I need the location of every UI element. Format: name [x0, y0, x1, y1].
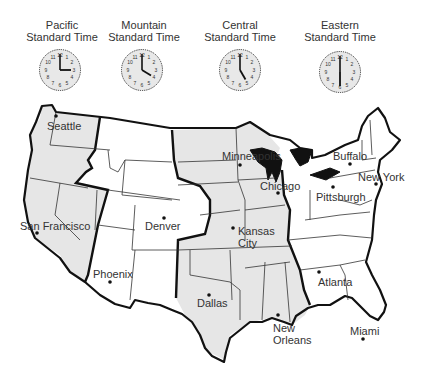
city-label-line2: Orleans [273, 334, 312, 346]
city-label-new-orleans: New Orleans [273, 322, 312, 346]
city-label-minneapolis: Minneapolis [222, 150, 281, 162]
city-label-line2: City [238, 237, 275, 249]
city-label-kansas-city: Kansas City [238, 225, 275, 249]
city-label-san-francisco: San Francisco [20, 220, 90, 232]
city-label-atlanta: Atlanta [318, 276, 352, 288]
city-label-pittsburgh: Pittsburgh [316, 191, 366, 203]
city-label-phoenix: Phoenix [93, 268, 133, 280]
city-label-denver: Denver [145, 220, 180, 232]
us-time-zone-map [0, 0, 422, 379]
city-label-buffalo: Buffalo [333, 150, 367, 162]
city-label-seattle: Seattle [47, 120, 81, 132]
city-label-line1: Kansas [238, 225, 275, 237]
city-label-miami: Miami [350, 325, 379, 337]
city-label-chicago: Chicago [260, 180, 300, 192]
city-label-new-york: New York [358, 171, 404, 183]
city-label-dallas: Dallas [197, 297, 228, 309]
city-label-line1: New [273, 322, 312, 334]
